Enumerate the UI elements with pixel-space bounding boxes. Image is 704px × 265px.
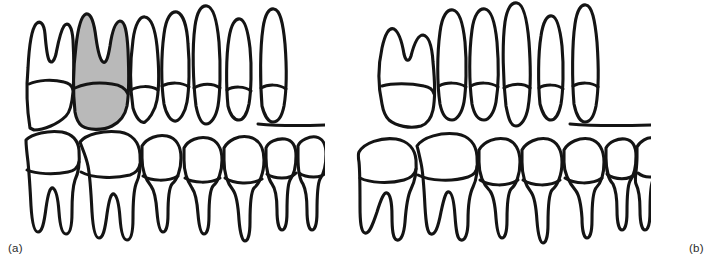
tooth-upper-lateral-incisor-a [227,19,251,120]
tooth-upper-canine-b [503,3,530,126]
tooth-lower-central-incisor-b [635,138,651,230]
tooth-lower-canine-b [564,139,604,238]
tooth-upper-lateral-incisor-b [539,16,563,120]
tooth-lower-first-premolar-a [184,137,222,234]
tooth-lower-second-premolar-a [142,135,181,232]
tooth-lower-first-molar-tilted-b [417,134,477,241]
tooth-lower-first-molar-a [80,131,140,240]
panel-b-label: (b) [689,242,704,254]
tooth-lower-central-incisor-a [298,137,325,230]
tooth-upper-first-premolar-b [470,9,498,120]
tooth-lower-lateral-incisor-a [266,139,296,230]
tooth-lower-canine-a [224,137,264,241]
arch-contact-line-b [570,124,651,126]
tooth-lower-second-molar-a [26,131,79,234]
tooth-upper-second-molar-a [27,22,74,130]
tooth-upper-first-premolar-a [162,12,189,121]
tooth-upper-canine-a [193,6,220,124]
panel-a-label: (a) [8,242,23,254]
panel-a: (a) [0,0,325,265]
tooth-upper-central-incisor-a [261,9,286,122]
tooth-upper-second-molar-overerupted-b [379,29,435,128]
tooth-upper-central-incisor-b [573,5,598,122]
arch-contact-line-a [258,124,325,126]
tooth-lower-second-premolar-b [479,138,520,238]
tooth-upper-second-premolar-a [131,17,159,122]
tooth-lower-second-molar-tilted-b [358,139,416,240]
tooth-lower-lateral-incisor-b [606,139,636,230]
tooth-upper-second-premolar-b [438,10,466,120]
panel-a-drawing [0,0,325,265]
panel-b-drawing [326,0,651,265]
tooth-lower-first-premolar-b [522,139,562,243]
panel-b: (b) [326,0,651,265]
tooth-upper-first-molar-a [74,14,129,129]
